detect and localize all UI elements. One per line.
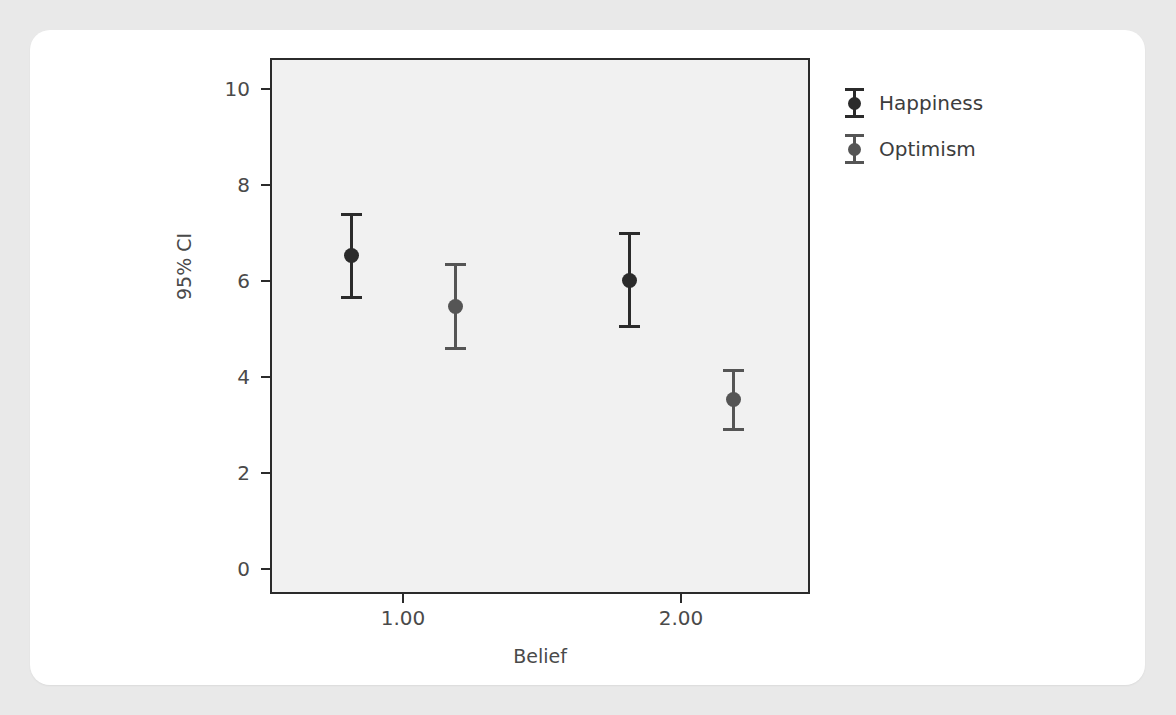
plot-area xyxy=(270,58,810,594)
legend-label: Happiness xyxy=(879,91,983,115)
y-tick-mark xyxy=(261,472,270,474)
y-tick-mark xyxy=(261,184,270,186)
x-axis-title: Belief xyxy=(440,645,640,667)
y-tick-label: 8 xyxy=(210,173,250,197)
legend-label: Optimism xyxy=(879,137,976,161)
y-tick-mark xyxy=(261,280,270,282)
error-bar-cap-lower xyxy=(723,428,744,431)
error-bar-cap-lower xyxy=(619,325,640,328)
data-point-marker xyxy=(726,392,741,407)
y-tick-label: 0 xyxy=(210,557,250,581)
y-tick-label: 6 xyxy=(210,269,250,293)
error-bar-happiness-2 xyxy=(619,232,640,328)
screenshot-root: 10 8 6 4 2 0 1.00 2.00 Belief 95% CI xyxy=(0,0,1176,715)
legend: Happiness Optimism xyxy=(845,80,1045,172)
data-point-marker xyxy=(344,248,359,263)
y-tick-mark xyxy=(261,376,270,378)
error-bar-happiness-1 xyxy=(341,213,362,299)
x-tick-mark xyxy=(680,594,682,603)
y-tick-label: 10 xyxy=(210,77,250,101)
error-bar-cap-lower xyxy=(341,296,362,299)
y-axis-title: 95% CI xyxy=(173,233,195,300)
error-bar-optimism-2 xyxy=(723,369,744,431)
y-tick-mark xyxy=(261,88,270,90)
y-tick-label: 2 xyxy=(210,461,250,485)
legend-item-optimism[interactable]: Optimism xyxy=(845,126,1045,172)
error-bar-icon xyxy=(845,134,865,164)
legend-item-happiness[interactable]: Happiness xyxy=(845,80,1045,126)
error-bar-optimism-1 xyxy=(445,263,466,349)
y-tick-label: 4 xyxy=(210,365,250,389)
y-tick-mark xyxy=(261,568,270,570)
x-tick-label: 1.00 xyxy=(363,606,443,630)
data-point-marker xyxy=(448,299,463,314)
error-bar-chart: 10 8 6 4 2 0 1.00 2.00 Belief 95% CI xyxy=(0,0,1176,715)
error-bar-icon xyxy=(845,88,865,118)
x-tick-mark xyxy=(402,594,404,603)
x-tick-label: 2.00 xyxy=(641,606,721,630)
data-point-marker xyxy=(622,273,637,288)
error-bar-cap-lower xyxy=(445,347,466,350)
